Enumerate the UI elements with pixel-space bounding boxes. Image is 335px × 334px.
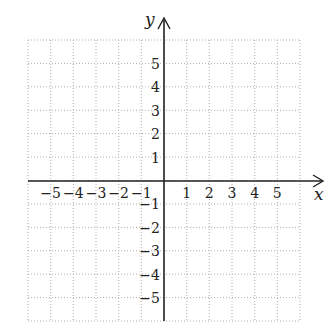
y-tick-label: −4 [139,267,160,283]
x-tick-labels: −5−4−3−2−112345 [40,185,281,201]
y-axis-label: y [144,9,155,29]
y-tick-label: −3 [139,243,160,259]
x-tick-label: 5 [273,185,282,201]
x-tick-label: 4 [250,185,259,201]
x-tick-label: −3 [86,185,107,201]
coordinate-plane: x y −5−4−3−2−112345 54321−1−2−3−4−5 [0,0,335,334]
x-tick-label: 2 [205,185,214,201]
x-tick-label: 1 [182,185,191,201]
y-tick-label: 3 [151,103,160,119]
y-tick-label: 5 [151,56,160,72]
y-tick-label: 1 [151,150,160,166]
x-axis-label: x [314,184,324,204]
x-tick-label: −2 [108,185,129,201]
y-tick-label: 4 [151,79,160,95]
y-tick-label: −2 [139,220,160,236]
x-tick-label: 3 [228,185,237,201]
x-tick-label: −4 [63,185,84,201]
x-tick-label: −5 [40,185,61,201]
y-tick-label: −1 [139,196,160,212]
y-tick-label: 2 [151,126,160,142]
y-tick-label: −5 [139,290,160,306]
